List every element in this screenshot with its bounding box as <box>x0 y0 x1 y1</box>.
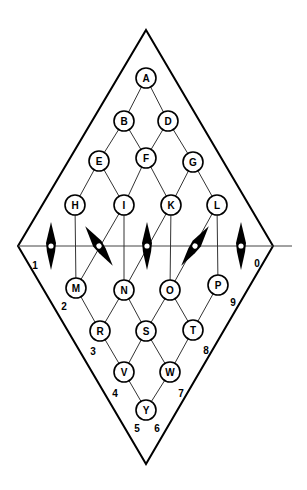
bin-label-2: 2 <box>61 301 67 312</box>
bin-label-1: 1 <box>32 260 38 271</box>
node-F: F <box>136 148 156 168</box>
node-E: E <box>89 151 109 171</box>
node-H: H <box>65 195 85 215</box>
bin-label-8: 8 <box>203 345 209 356</box>
bin-label-6: 6 <box>154 423 160 434</box>
node-label: M <box>72 283 80 294</box>
node-label: Y <box>143 405 150 416</box>
node-label: D <box>164 116 171 127</box>
node-label: G <box>189 157 197 168</box>
node-L: L <box>207 195 227 215</box>
rotor-pivot <box>238 243 243 248</box>
node-A: A <box>136 68 156 88</box>
node-label: P <box>215 280 222 291</box>
node-label: F <box>143 153 149 164</box>
bin-label-9: 9 <box>230 297 236 308</box>
node-W: W <box>160 362 180 382</box>
edge-H-M <box>75 205 76 288</box>
node-label: W <box>165 367 175 378</box>
bin-label-0: 0 <box>254 258 260 269</box>
node-label: N <box>120 285 127 296</box>
node-label: S <box>143 326 150 337</box>
node-N: N <box>114 280 134 300</box>
node-R: R <box>90 321 110 341</box>
node-K: K <box>161 195 181 215</box>
rotor-pivot <box>144 243 149 248</box>
node-label: R <box>96 326 104 337</box>
rotor-3 <box>142 222 152 270</box>
edge-K-O <box>170 205 171 290</box>
node-G: G <box>183 152 203 172</box>
node-label: T <box>190 325 196 336</box>
edge-L-P <box>217 205 218 285</box>
node-label: E <box>96 156 103 167</box>
rotor-1 <box>46 222 56 270</box>
node-label: L <box>214 200 220 211</box>
bin-label-5: 5 <box>134 423 140 434</box>
node-T: T <box>183 320 203 340</box>
diagram-canvas: ABDEFGHIKLMNOPRSTVWY 0123456789 <box>0 0 307 490</box>
node-S: S <box>136 321 156 341</box>
node-M: M <box>66 278 86 298</box>
node-Y: Y <box>136 400 156 420</box>
node-label: I <box>123 200 126 211</box>
node-label: H <box>71 200 78 211</box>
node-V: V <box>114 362 134 382</box>
bin-label-3: 3 <box>90 346 96 357</box>
bin-label-4: 4 <box>112 388 118 399</box>
node-label: O <box>166 285 174 296</box>
node-label: A <box>142 73 149 84</box>
node-D: D <box>158 111 178 131</box>
bin-label-7: 7 <box>178 388 184 399</box>
diamond-diagram: ABDEFGHIKLMNOPRSTVWY 0123456789 <box>0 0 307 490</box>
node-I: I <box>114 195 134 215</box>
node-O: O <box>160 280 180 300</box>
node-label: B <box>120 116 127 127</box>
node-B: B <box>114 111 134 131</box>
node-label: V <box>121 367 128 378</box>
rotor-pivot <box>48 243 53 248</box>
node-label: K <box>167 200 175 211</box>
node-P: P <box>208 275 228 295</box>
rotor-5 <box>236 222 246 270</box>
